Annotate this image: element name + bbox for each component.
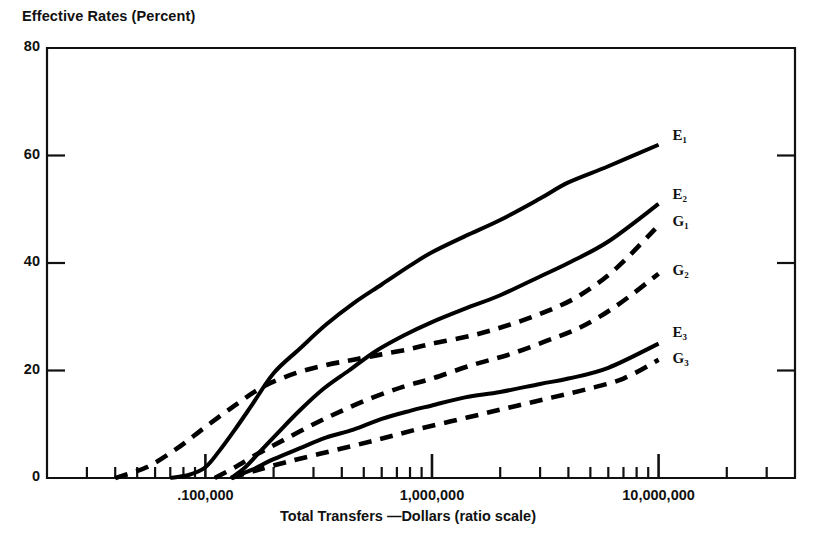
series-label-e3: E₃	[673, 324, 688, 341]
chart-plot-svg	[0, 0, 816, 549]
series-line-g1	[115, 225, 658, 478]
x-tick-label: 10,000,000	[589, 487, 729, 503]
y-tick-label: 60	[0, 146, 40, 162]
chart-root: Effective Rates (Percent) 020406080 .100…	[0, 0, 816, 549]
y-tick-label: 80	[0, 38, 40, 54]
series-line-g2	[215, 274, 659, 478]
x-tick-label: .100,000	[135, 487, 275, 503]
x-tick-label: 1,000,000	[362, 487, 502, 503]
series-label-e2: E₂	[673, 186, 688, 203]
y-tick-label: 0	[0, 468, 40, 484]
series-label-e1: E₁	[673, 127, 688, 144]
series-label-g2: G₂	[673, 262, 689, 279]
x-axis-title: Total Transfers —Dollars (ratio scale)	[0, 508, 816, 524]
y-tick-label: 20	[0, 361, 40, 377]
series-label-g1: G₁	[673, 213, 689, 230]
series-line-g3	[231, 360, 658, 478]
series-label-g3: G₃	[673, 350, 689, 367]
series-line-e1	[170, 145, 658, 478]
y-tick-label: 40	[0, 253, 40, 269]
